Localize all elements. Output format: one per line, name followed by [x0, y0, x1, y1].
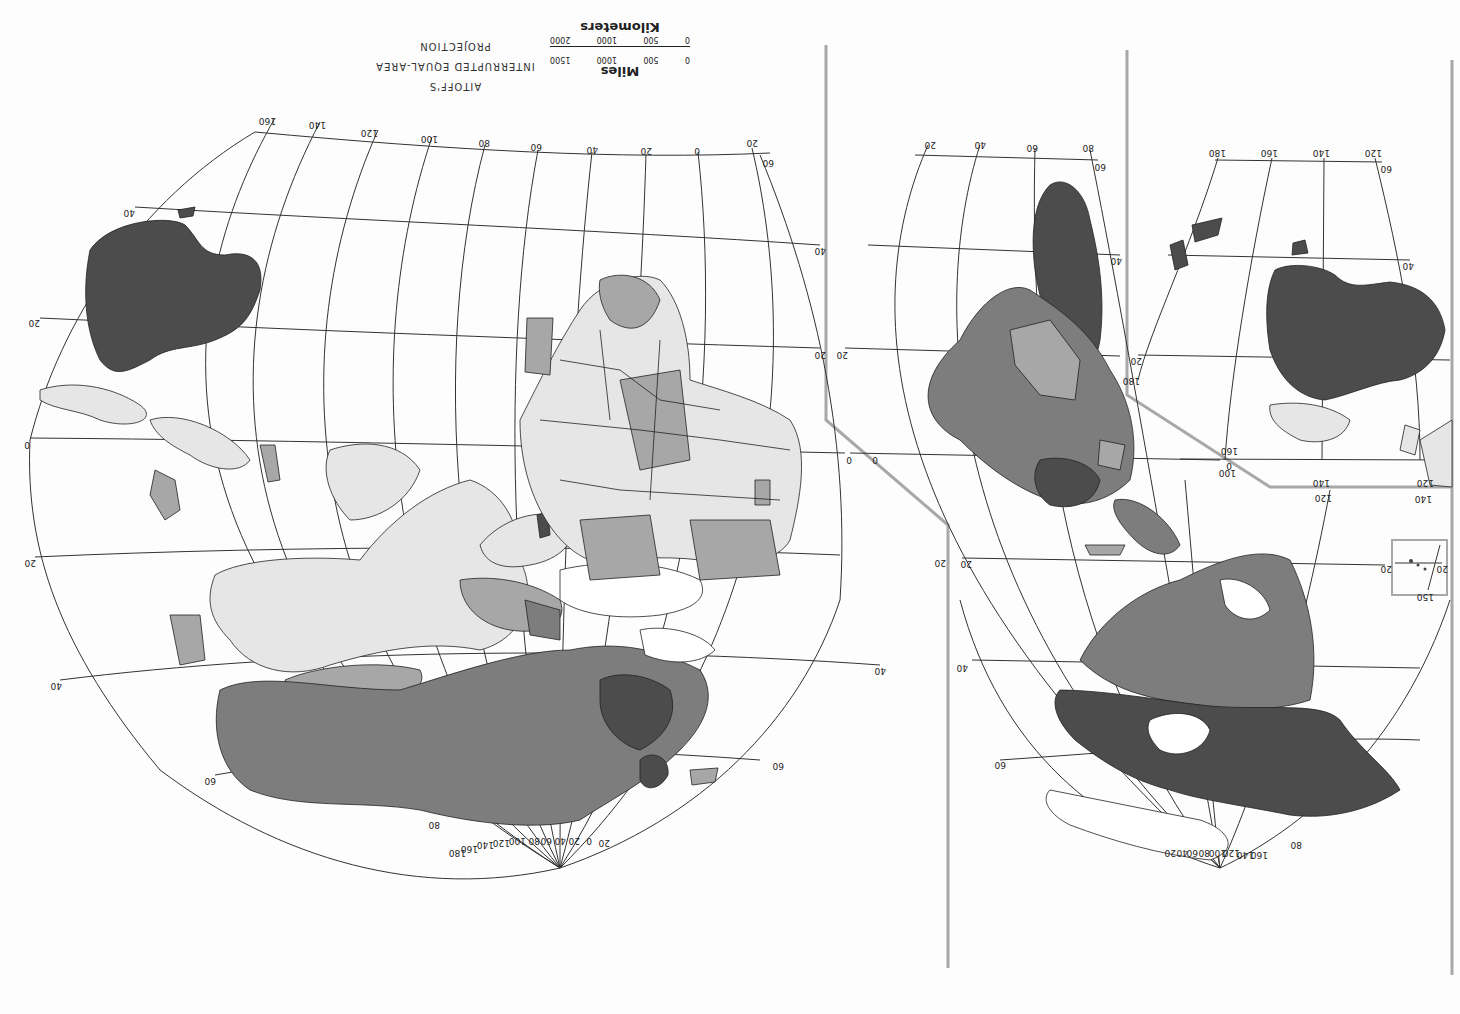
- inset-tasmania: [1292, 240, 1308, 255]
- landmass-new-guinea: [40, 385, 146, 424]
- inset-sulawesi: [1400, 425, 1420, 455]
- label-parallel: 40: [1402, 261, 1414, 271]
- label-parallel: 60: [772, 761, 784, 771]
- landmass-canada: [1055, 690, 1400, 816]
- title-line-1: AITOFF'S: [360, 76, 550, 96]
- label-meridian: 60: [540, 836, 552, 846]
- label-meridian: 80: [1290, 840, 1302, 850]
- label-parallel: 20: [1380, 564, 1392, 574]
- label-parallel: 20: [24, 558, 36, 568]
- label-meridian: 60: [1026, 143, 1038, 153]
- label-meridian: 180: [1209, 148, 1226, 158]
- hawaii-island: [1424, 568, 1427, 571]
- parallel-40: [135, 207, 820, 245]
- label-meridian: 20: [1164, 848, 1176, 858]
- label-meridian: 160: [461, 844, 478, 854]
- hawaii-island: [1417, 564, 1420, 567]
- landmass-libya-egypt: [580, 515, 660, 580]
- scale-bar-line: [550, 46, 690, 53]
- label-meridian: 40: [1176, 848, 1188, 858]
- landmass-japan-korea: [170, 615, 205, 665]
- label-meridian: 140: [309, 120, 326, 130]
- scale-unit-km: Kilometers: [550, 20, 690, 35]
- label-parallel: 60: [204, 776, 216, 786]
- scale-tick: 0: [685, 55, 690, 64]
- label-meridian: 180: [1123, 376, 1140, 386]
- scale-bar-block: Miles 0 500 1000 1500 0 500 1000 2000 Ki…: [550, 20, 690, 79]
- label-meridian: 140: [1313, 478, 1330, 488]
- frame-line-left: [826, 45, 948, 968]
- label-meridian: 40: [974, 140, 986, 150]
- label-meridian: 40: [554, 836, 566, 846]
- inset-meridian-160: [1225, 158, 1272, 460]
- label-parallel: 40: [874, 666, 886, 676]
- label-meridian: 20: [598, 838, 610, 848]
- inset-parallel-0: [1180, 459, 1450, 460]
- label-parallel: 60: [994, 760, 1006, 770]
- label-parallel: 20: [836, 350, 848, 360]
- label-meridian: 80: [478, 138, 490, 148]
- label-meridian: 160: [1261, 148, 1278, 158]
- inset-parallel-40: [1168, 255, 1410, 260]
- label-parallel: 0: [24, 440, 30, 450]
- label-parallel: 20: [1436, 564, 1448, 574]
- map-title-block: AITOFF'S INTERRUPTED EQUAL-AREA PROJECTI…: [360, 36, 550, 96]
- label-meridian: 160: [259, 116, 276, 126]
- parallel-20s-right: [962, 558, 1385, 565]
- left-lobe-land: [40, 207, 802, 825]
- world-map-canvas: 160 140 120 100 80 60 40 20 0 20 40 20 0…: [0, 0, 1460, 1014]
- label-parallel: 60: [1380, 164, 1392, 174]
- label-meridian: 0: [586, 836, 592, 846]
- landmass-peru: [1098, 440, 1125, 470]
- scale-tick: 500: [643, 55, 658, 64]
- label-parallel: 40: [814, 246, 826, 256]
- hawaii-island: [1409, 559, 1413, 563]
- landmass-borneo: [150, 417, 250, 469]
- label-meridian: 120: [493, 838, 510, 848]
- label-meridian: 60: [530, 142, 542, 152]
- parallel-60-top: [255, 132, 770, 155]
- label-meridian: 150: [1417, 592, 1434, 602]
- label-parallel: 40: [50, 681, 62, 691]
- label-meridian: 120: [361, 128, 378, 138]
- inset-parallel-60: [1215, 160, 1382, 162]
- landmass-brazil: [928, 287, 1134, 503]
- landmass-united-states: [1080, 554, 1314, 709]
- scale-unit-miles: Miles: [550, 64, 690, 79]
- landmass-australia: [86, 220, 261, 371]
- label-meridian: 20: [640, 146, 652, 156]
- scale-tick: 1000: [597, 35, 617, 44]
- scale-ticks-miles: 0 500 1000 1500: [550, 55, 690, 64]
- label-meridian: 20: [746, 138, 758, 148]
- landmass-madagascar: [525, 318, 553, 375]
- label-parallel: 40: [956, 663, 968, 673]
- scale-tick: 500: [643, 35, 658, 44]
- label-meridian: 40: [586, 145, 598, 155]
- label-meridian: 80: [528, 836, 540, 846]
- scale-tick: 2000: [550, 35, 570, 44]
- landmass-tasmania: [178, 207, 195, 218]
- inset-oceania: [1138, 158, 1452, 487]
- label-parallel: 20: [1130, 356, 1142, 366]
- label-parallel: 0: [846, 455, 852, 465]
- label-meridian: 20: [924, 140, 936, 150]
- label-parallel: 40: [123, 208, 135, 218]
- label-meridian: 60: [1186, 848, 1198, 858]
- inset-new-zealand-south: [1170, 240, 1188, 270]
- label-meridian: 80: [1082, 143, 1094, 153]
- label-meridian: 100: [1219, 468, 1236, 478]
- label-meridian: 140: [477, 840, 494, 850]
- landmass-north-africa-white: [640, 628, 715, 662]
- landmass-guinea-region: [755, 480, 770, 505]
- inset-new-guinea: [1270, 403, 1350, 442]
- label-meridian: 120: [1315, 493, 1332, 503]
- scale-tick: 1000: [597, 55, 617, 64]
- label-parallel: 60: [1094, 162, 1106, 172]
- label-meridian: 140: [1313, 148, 1330, 158]
- label-parallel: 0: [872, 455, 878, 465]
- label-meridian: 160: [1251, 850, 1268, 860]
- title-line-2: INTERRUPTED EQUAL-AREA: [360, 56, 550, 76]
- landmass-british-isles: [640, 755, 668, 788]
- label-meridian: 120: [1365, 148, 1382, 158]
- landmass-caribbean: [1085, 545, 1125, 555]
